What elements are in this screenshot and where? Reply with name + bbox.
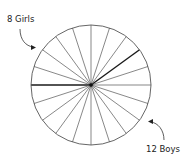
sector-spoke <box>56 36 91 85</box>
sector-spoke <box>42 85 91 120</box>
sector-spoke <box>91 28 110 85</box>
sector-spoke <box>34 85 91 104</box>
sector-spoke <box>42 50 91 85</box>
center-point <box>89 83 93 87</box>
sector-spoke <box>91 85 140 120</box>
boys-arrow-icon <box>148 119 164 140</box>
girls-arrow-icon <box>20 29 36 50</box>
sector-spoke <box>91 85 126 134</box>
sector-spoke <box>34 66 91 85</box>
sector-spoke <box>72 28 91 85</box>
sector-spoke <box>72 85 91 142</box>
sector-spoke <box>91 85 110 142</box>
sector-spoke <box>91 66 148 85</box>
sector-spoke <box>56 85 91 134</box>
fraction-circle-diagram <box>0 0 183 159</box>
sector-spoke <box>91 85 148 104</box>
sector-spoke <box>91 36 126 85</box>
group-divider-line <box>91 50 140 85</box>
